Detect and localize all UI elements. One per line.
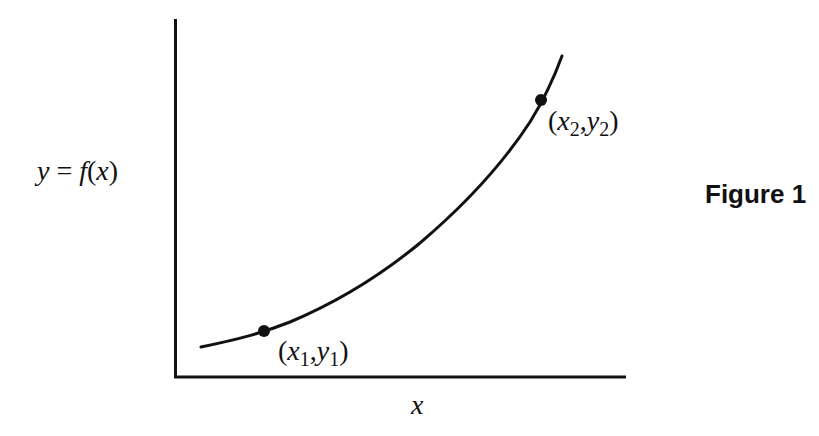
y-axis-label: y = f(x) [34, 155, 118, 186]
curve-f-of-x [201, 56, 562, 347]
x-axis-label: x [410, 389, 424, 420]
point-2-marker [535, 94, 547, 106]
point-2-label: (x2,y2) [548, 105, 619, 140]
graph-canvas: y = f(x) x (x1,y1) (x2,y2) Figure 1 [0, 0, 819, 436]
point-1-marker [258, 325, 270, 337]
figure-caption: Figure 1 [705, 179, 806, 209]
point-1-label: (x1,y1) [278, 335, 349, 370]
figure-1: y = f(x) x (x1,y1) (x2,y2) Figure 1 [0, 0, 819, 436]
